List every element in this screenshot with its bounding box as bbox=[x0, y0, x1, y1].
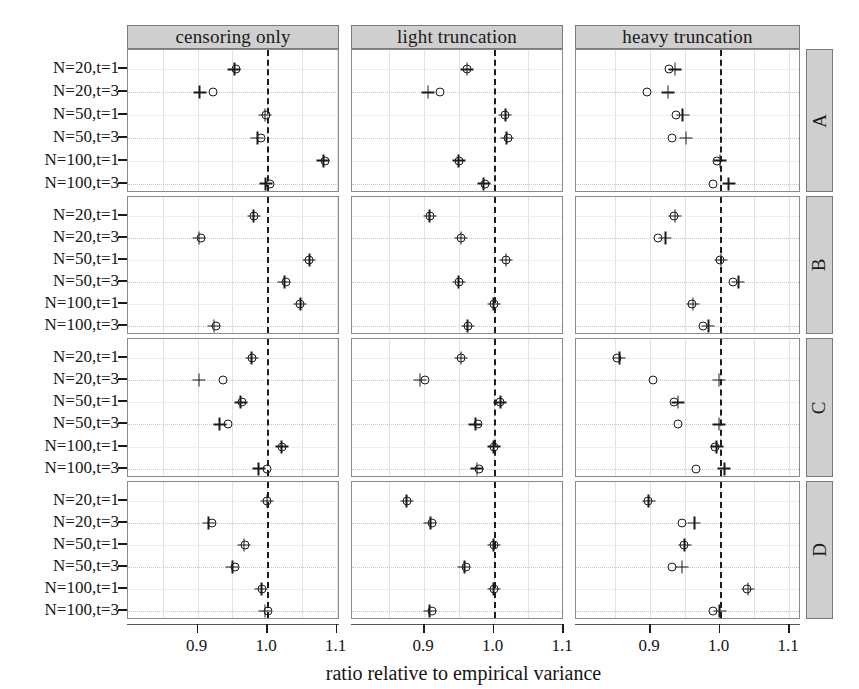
y-axis-label: N=50,t=3 bbox=[53, 413, 119, 433]
horizontal-gridline bbox=[352, 380, 562, 381]
horizontal-gridline bbox=[576, 326, 799, 327]
panel-a-2 bbox=[575, 49, 800, 192]
y-axis-label: N=20,t=1 bbox=[53, 347, 119, 367]
row-strip-label: A bbox=[808, 114, 830, 128]
horizontal-gridline bbox=[352, 589, 562, 590]
y-axis-tick bbox=[118, 324, 127, 326]
horizontal-gridline bbox=[352, 469, 562, 470]
panel-c-0 bbox=[127, 338, 339, 477]
vertical-gridline bbox=[198, 339, 199, 476]
data-point-plus bbox=[193, 86, 206, 99]
horizontal-gridline bbox=[128, 184, 338, 185]
horizontal-gridline bbox=[576, 260, 799, 261]
y-axis-tick bbox=[118, 565, 127, 567]
horizontal-gridline bbox=[128, 358, 338, 359]
data-point-plus bbox=[469, 418, 482, 431]
column-strip-2: heavy truncation bbox=[575, 25, 800, 49]
data-point-plus bbox=[454, 231, 467, 244]
y-axis-tick bbox=[118, 214, 127, 216]
vertical-gridline bbox=[528, 50, 529, 191]
panel-d-1 bbox=[351, 481, 563, 619]
data-point-plus bbox=[202, 516, 215, 529]
data-point-plus bbox=[423, 209, 436, 222]
vertical-gridline bbox=[650, 50, 651, 191]
data-point-plus bbox=[251, 131, 264, 144]
vertical-gridline bbox=[528, 482, 529, 618]
data-point-plus bbox=[258, 604, 271, 617]
vertical-gridline bbox=[163, 339, 164, 476]
horizontal-gridline bbox=[576, 184, 799, 185]
data-point-circle bbox=[208, 88, 217, 97]
data-point-plus bbox=[669, 63, 682, 76]
horizontal-gridline bbox=[352, 447, 562, 448]
reference-line bbox=[267, 339, 269, 476]
horizontal-gridline bbox=[128, 501, 338, 502]
vertical-gridline bbox=[198, 197, 199, 333]
horizontal-gridline bbox=[128, 424, 338, 425]
horizontal-gridline bbox=[576, 238, 799, 239]
data-point-plus bbox=[713, 604, 726, 617]
x-axis-tick bbox=[197, 624, 199, 633]
x-axis-tick-label: 0.9 bbox=[186, 636, 207, 656]
vertical-gridline bbox=[754, 482, 755, 618]
y-axis-tick bbox=[118, 258, 127, 260]
data-point-plus bbox=[732, 275, 745, 288]
data-point-plus bbox=[487, 538, 500, 551]
vertical-gridline bbox=[789, 339, 790, 476]
data-point-plus bbox=[712, 418, 725, 431]
data-point-plus bbox=[718, 462, 731, 475]
y-axis-tick bbox=[118, 159, 127, 161]
x-axis-tick-label: 1.0 bbox=[708, 636, 729, 656]
vertical-gridline bbox=[685, 197, 686, 333]
data-point-plus bbox=[461, 319, 474, 332]
horizontal-gridline bbox=[576, 92, 799, 93]
data-point-circle bbox=[709, 179, 718, 188]
data-point-plus bbox=[470, 462, 483, 475]
y-axis-label: N=50,t=1 bbox=[53, 534, 119, 554]
vertical-gridline bbox=[389, 197, 390, 333]
vertical-gridline bbox=[789, 50, 790, 191]
data-point-plus bbox=[494, 396, 507, 409]
data-point-plus bbox=[487, 582, 500, 595]
reference-line bbox=[494, 197, 496, 333]
horizontal-gridline bbox=[352, 611, 562, 612]
data-point-plus bbox=[258, 109, 271, 122]
x-axis-tick bbox=[719, 624, 721, 633]
data-point-plus bbox=[192, 231, 205, 244]
y-axis-tick bbox=[118, 467, 127, 469]
horizontal-gridline bbox=[128, 589, 338, 590]
y-axis-tick bbox=[118, 609, 127, 611]
x-axis-tick-label: 1.0 bbox=[482, 636, 503, 656]
y-axis-label: N=100,t=3 bbox=[45, 173, 119, 193]
data-point-plus bbox=[702, 319, 715, 332]
data-point-circle bbox=[677, 518, 686, 527]
y-axis-label: N=50,t=3 bbox=[53, 271, 119, 291]
vertical-gridline bbox=[337, 339, 338, 476]
data-point-plus bbox=[680, 131, 693, 144]
horizontal-gridline bbox=[128, 523, 338, 524]
y-axis-label: N=20,t=1 bbox=[53, 490, 119, 510]
vertical-gridline bbox=[754, 50, 755, 191]
horizontal-gridline bbox=[128, 469, 338, 470]
y-axis-label: N=20,t=1 bbox=[53, 205, 119, 225]
vertical-gridline bbox=[789, 482, 790, 618]
data-point-plus bbox=[424, 516, 437, 529]
y-axis-label: N=20,t=3 bbox=[53, 512, 119, 532]
y-axis-tick bbox=[118, 302, 127, 304]
data-point-plus bbox=[741, 582, 754, 595]
data-point-plus bbox=[238, 538, 251, 551]
panel-c-1 bbox=[351, 338, 563, 477]
vertical-gridline bbox=[232, 197, 233, 333]
vertical-gridline bbox=[302, 50, 303, 191]
panel-d-0 bbox=[127, 481, 339, 619]
vertical-gridline bbox=[528, 197, 529, 333]
horizontal-gridline bbox=[128, 92, 338, 93]
data-point-plus bbox=[255, 582, 268, 595]
x-axis-tick bbox=[266, 624, 268, 633]
horizontal-gridline bbox=[576, 424, 799, 425]
row-strip-d: D bbox=[806, 481, 833, 619]
vertical-gridline bbox=[302, 339, 303, 476]
y-axis-tick bbox=[118, 378, 127, 380]
x-axis-line bbox=[127, 624, 339, 625]
x-axis-title: ratio relative to empirical variance bbox=[127, 662, 800, 685]
